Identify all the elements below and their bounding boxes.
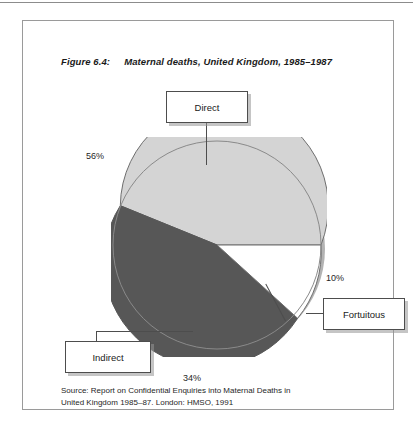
pie-chart	[111, 137, 327, 357]
figure-frame: Figure 6.4:Maternal deaths, United Kingd…	[22, 20, 394, 410]
figure-title: Figure 6.4:Maternal deaths, United Kingd…	[61, 56, 332, 67]
pie-percent-direct: 56%	[86, 151, 104, 161]
leader-line-fortuitous-horizontal	[306, 313, 324, 314]
callout-indirect: Indirect	[65, 341, 151, 373]
figure-page: Figure 6.4:Maternal deaths, United Kingd…	[0, 0, 413, 430]
pie-percent-indirect: 34%	[183, 373, 201, 383]
callout-fortuitous: Fortuitous	[323, 298, 405, 330]
figure-number: Figure 6.4:	[61, 56, 110, 67]
figure-source-line-2: United Kingdom 1985–87. London: HMSO, 19…	[61, 397, 290, 409]
pie-chart-svg	[111, 137, 327, 357]
figure-source: Source: Report on Confidential Enquiries…	[61, 385, 290, 408]
callout-fortuitous-label: Fortuitous	[343, 309, 385, 320]
callout-direct-label: Direct	[195, 102, 220, 113]
figure-source-line-1: Source: Report on Confidential Enquiries…	[61, 385, 290, 397]
page-top-rule	[0, 2, 413, 3]
figure-title-text: Maternal deaths, United Kingdom, 1985–19…	[124, 56, 332, 67]
leader-line-direct	[206, 123, 207, 165]
callout-direct: Direct	[166, 91, 248, 123]
callout-indirect-label: Indirect	[92, 352, 123, 363]
pie-percent-fortuitous: 10%	[326, 273, 344, 283]
leader-line-indirect-horizontal	[96, 331, 193, 332]
